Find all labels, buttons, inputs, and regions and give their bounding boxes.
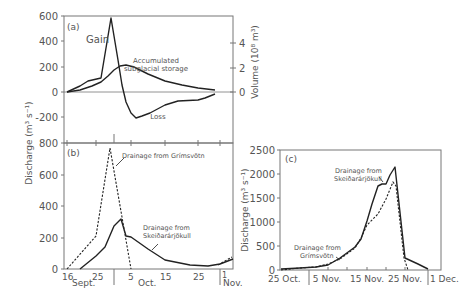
grimsvotn-line-b	[67, 148, 131, 269]
panel-c-y-ticks: 2500 2000 1500 1000 500 0	[250, 145, 280, 276]
tick-label: 25 Nov.	[388, 274, 422, 284]
panel-a-y-ticks-right: 4 2 0	[230, 38, 245, 98]
month-label: Oct.	[138, 278, 156, 288]
month-label: Sept.	[72, 278, 95, 288]
grimsvotn-label-b: Drainage from Grímsvötn	[122, 152, 205, 160]
panel-a-title: (a)	[67, 22, 80, 32]
panel-c-title: (c)	[285, 154, 297, 164]
panel-a-y-ticks: 600 400 200 0 -200	[35, 11, 64, 123]
y-axis-label-left: Discharge (m³ s⁻¹)	[24, 101, 34, 184]
tick-label: 1 Dec.	[430, 274, 459, 284]
tick-label: 600	[39, 170, 58, 181]
tick-label: 15 Nov.	[350, 274, 384, 284]
panel-c: 2500 2000 1500 1000 500 0 Discharge (m³ …	[240, 145, 459, 285]
panel-b-y-ticks: 800 600 400 200 0	[39, 138, 64, 275]
gain-label: Gain	[86, 34, 109, 45]
tick-label: 0	[239, 87, 245, 98]
panel-b-title: (b)	[67, 148, 80, 158]
tick-label: 500	[256, 241, 275, 252]
panel-b-x-tick-labels: 16 25 5 15 25 1 Sept. Oct. Nov.	[62, 271, 243, 288]
panel-c-x-tick-labels: 25 Oct. 5 Nov. 15 Nov. 25 Nov. 1 Dec.	[268, 274, 459, 284]
loss-label: Loss	[150, 113, 166, 121]
panel-a: 600 400 200 0 -200 4 2 0 Volume (10⁸ m³)…	[35, 11, 260, 143]
tick-label: 25 Oct.	[268, 274, 301, 284]
tick-label: 0	[52, 87, 58, 98]
skeidararjokull-label-b-2: Skeiðarárjökull	[143, 232, 191, 240]
tick-label: 15	[160, 272, 171, 282]
panel-b-x-ticks	[67, 143, 220, 285]
grimsvotn-label-c-1: Drainage from	[294, 244, 341, 252]
tick-label: 5 Nov.	[313, 274, 341, 284]
tick-label: 200	[39, 62, 58, 73]
panel-a-x-ticks	[67, 134, 220, 143]
tick-label: 400	[39, 36, 58, 47]
storage-label-2: subglacial storage	[124, 65, 188, 73]
skeidararjokull-label-c-2: Skeiðarárjökull	[334, 175, 382, 183]
grimsvotn-label-c-2: Grímsvötn	[300, 252, 334, 260]
tick-label: 400	[39, 201, 58, 212]
month-label: Nov.	[223, 278, 243, 288]
tick-label: 2500	[250, 145, 275, 156]
figure: 600 400 200 0 -200 4 2 0 Volume (10⁸ m³)…	[0, 0, 470, 305]
skeidararjokull-arrow-b	[152, 244, 158, 250]
tick-label: 200	[39, 233, 58, 244]
tick-label: 600	[39, 11, 58, 22]
tick-label: -200	[35, 112, 58, 123]
tick-label: 1000	[250, 217, 275, 228]
skeidararjokull-label-b-1: Drainage from	[143, 224, 190, 232]
tick-label: 0	[52, 264, 58, 275]
storage-label-1: Accumulated	[133, 57, 179, 65]
tick-label: 2000	[250, 169, 275, 180]
panel-b: 800 600 400 200 0 16 25 5 15 25 1 Sept. …	[39, 138, 243, 288]
tick-label: 1500	[250, 193, 275, 204]
y-axis-label-c: Discharge (m³ s⁻¹)	[240, 168, 250, 251]
tick-label: 25	[193, 272, 204, 282]
tick-label: 4	[239, 38, 245, 49]
tick-label: 2	[239, 63, 245, 74]
y-axis-label-right: Volume (10⁸ m³)	[250, 25, 260, 99]
tick-label: 5	[128, 272, 134, 282]
tick-label: 800	[39, 138, 58, 149]
skeidararjokull-label-c-1: Drainage from	[335, 167, 382, 175]
